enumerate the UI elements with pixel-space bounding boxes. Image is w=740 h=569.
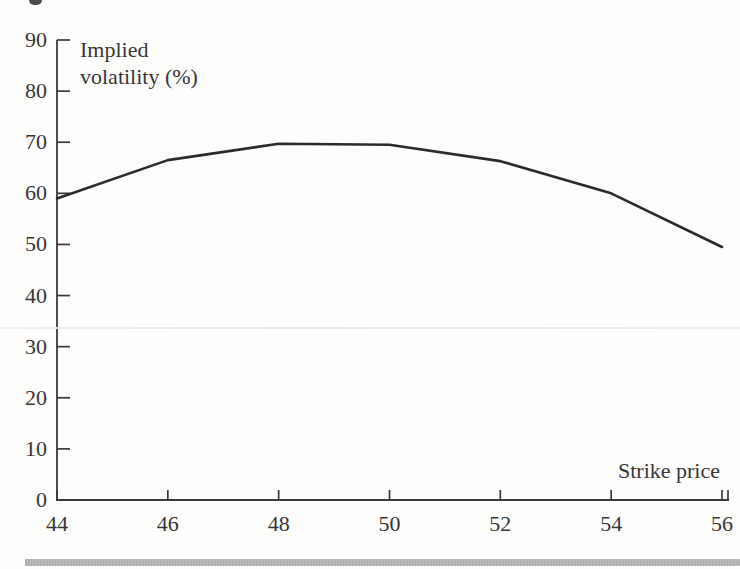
x-tick-label: 54	[600, 511, 622, 536]
y-tick-label: 80	[25, 78, 47, 103]
scan-artifact-line	[0, 327, 740, 329]
y-tick-label: 40	[25, 283, 47, 308]
x-tick-label: 48	[268, 511, 290, 536]
y-tick-label: 50	[25, 231, 47, 256]
x-tick-label: 44	[46, 511, 68, 536]
x-tick-label: 50	[379, 511, 401, 536]
implied-volatility-chart: 010203040506070809044464850525456 Implie…	[0, 0, 740, 546]
x-axis-title: Strike price	[618, 458, 720, 483]
y-tick-label: 90	[25, 27, 47, 52]
y-tick-label: 10	[25, 436, 47, 461]
y-axis-title-line2: volatility (%)	[80, 64, 198, 89]
y-tick-label: 60	[25, 180, 47, 205]
page-bottom-rule	[25, 559, 740, 566]
scanned-figure-page: 010203040506070809044464850525456 Implie…	[0, 0, 740, 569]
implied-volatility-curve	[57, 144, 722, 247]
y-tick-label: 30	[25, 334, 47, 359]
y-tick-label: 20	[25, 385, 47, 410]
y-tick-label: 0	[36, 487, 47, 512]
x-tick-label: 52	[489, 511, 511, 536]
y-tick-label: 70	[25, 129, 47, 154]
x-tick-label: 56	[711, 511, 733, 536]
y-axis-title-line1: Implied	[80, 37, 148, 62]
chart-series	[57, 144, 722, 247]
x-tick-label: 46	[157, 511, 179, 536]
